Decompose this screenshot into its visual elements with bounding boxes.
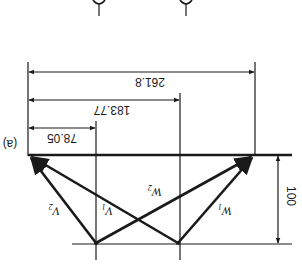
vector-W2 [96,157,251,243]
panel-label: (a) [3,137,18,151]
vector-label-V2: V2 [49,202,60,218]
vertex-point [176,241,180,245]
dimension-label-middle: 183.77 [93,103,130,117]
vector-label-V1: V1 [102,202,113,218]
dimension-label-short: 78.05 [47,131,77,145]
velocity-triangle-diagram: 261.8 183.77 78.05 (a) 100 V2 V1 W2 W1 [0,0,302,268]
vector-label-W2: W2 [148,183,162,199]
dimension-label-height: 100 [284,186,298,206]
blade-profile-icon [93,0,105,16]
dimension-label-total: 261.8 [135,75,165,89]
vector-W1 [178,158,252,243]
blade-profile-icon [180,0,192,16]
vector-V1 [32,157,178,243]
vector-V2 [31,158,96,243]
vertex-point [94,241,98,245]
vector-label-W1: W1 [218,202,232,218]
